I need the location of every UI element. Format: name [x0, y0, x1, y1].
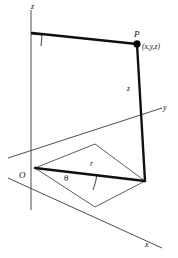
figure-canvas [0, 0, 178, 258]
cylindrical-coordinates-figure: z y x P (x,y,z) z r θ O [0, 0, 178, 258]
x-axis-label: x [145, 241, 149, 249]
segment-top-to-p [32, 33, 137, 44]
right-angle-mark [31, 34, 42, 46]
z-height-label: z [127, 85, 130, 93]
z-axis-label: z [31, 3, 34, 11]
point-p-dot [134, 41, 141, 48]
segment-p-to-projection [137, 44, 145, 181]
theta-angle-label: θ [64, 174, 68, 183]
y-axis-label: y [163, 104, 167, 112]
x-axis-line [8, 178, 162, 248]
projection-line-o-to-y-foot [35, 144, 95, 168]
radius-label: r [90, 160, 93, 168]
point-coordinates-label: (x,y,z) [142, 43, 160, 51]
point-p-label: P [134, 30, 140, 39]
origin-label: O [19, 171, 26, 180]
projection-line-x-foot-to-corner [95, 181, 145, 207]
